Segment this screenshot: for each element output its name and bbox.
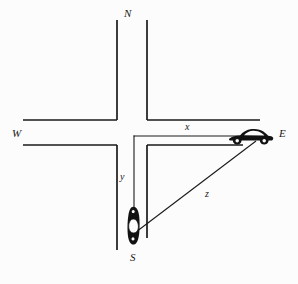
south-car-roof [129, 219, 139, 233]
south-car [127, 207, 139, 245]
compass-label-north: N [124, 8, 131, 19]
south-car-rear-wheel [131, 237, 135, 241]
measurement-triangle [134, 136, 257, 234]
z-distance-line [136, 141, 256, 232]
south-car-front-wheel [131, 210, 135, 214]
compass-label-south: S [130, 252, 136, 263]
crossroads-diagram: N W E S x y z [0, 0, 298, 284]
road-network [23, 20, 260, 250]
east-car-rear-wheel [235, 138, 240, 143]
compass-label-east: E [279, 128, 286, 139]
east-car [229, 129, 273, 145]
measure-label-x: x [185, 122, 189, 132]
diagram-canvas [0, 0, 298, 284]
measure-label-y: y [120, 172, 124, 182]
compass-label-west: W [12, 128, 21, 139]
east-car-front-wheel [262, 138, 267, 143]
measure-label-z: z [205, 189, 209, 199]
